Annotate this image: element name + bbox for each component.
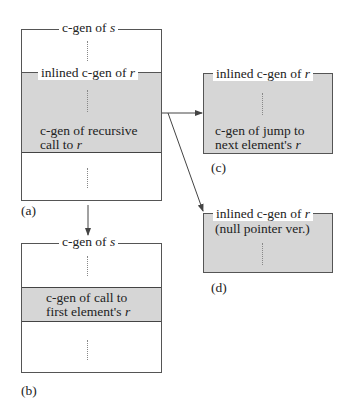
arrows-layer (0, 0, 349, 412)
arrow-a-to-d (168, 113, 203, 211)
